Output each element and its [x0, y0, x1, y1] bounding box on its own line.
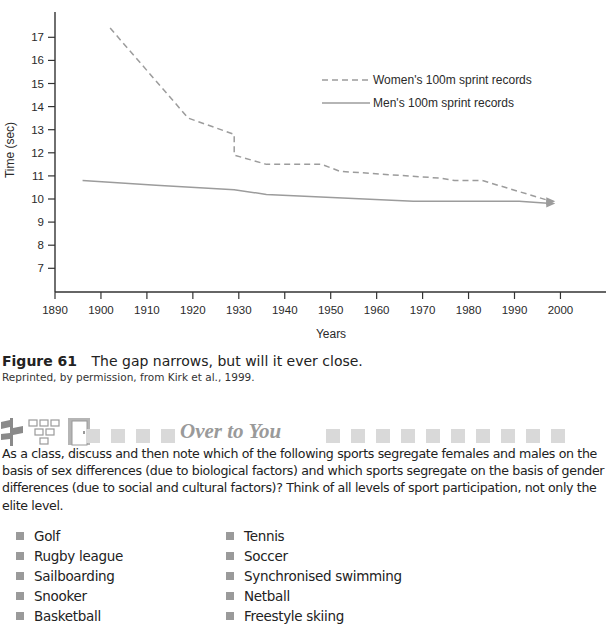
sport-list-item: Sailboarding — [16, 566, 123, 586]
y-tick-label: 15 — [31, 78, 44, 90]
x-tick-label: 1960 — [364, 304, 390, 316]
y-tick-label: 16 — [31, 54, 44, 66]
sport-list-item: Netball — [226, 586, 402, 606]
square-bullet-icon — [16, 552, 24, 560]
square-bullet-icon — [16, 592, 24, 600]
decor-square — [136, 429, 150, 443]
square-bullet-icon — [16, 532, 24, 540]
sport-name: Rugby league — [34, 548, 123, 564]
decor-square — [161, 429, 175, 443]
sport-name: Basketball — [34, 608, 101, 624]
square-bullet-icon — [226, 572, 234, 580]
men-records-line — [83, 181, 552, 204]
x-tick-label: 1950 — [318, 304, 344, 316]
sport-list-item: Soccer — [226, 546, 402, 566]
x-tick-label: 1990 — [502, 304, 528, 316]
x-tick-label: 1940 — [272, 304, 298, 316]
x-tick-label: 1980 — [456, 304, 482, 316]
decor-square — [501, 429, 515, 443]
decor-square — [526, 429, 540, 443]
y-tick-label: 7 — [38, 262, 44, 274]
sport-name: Synchronised swimming — [244, 568, 402, 584]
decor-square — [551, 429, 565, 443]
y-tick-label: 10 — [31, 193, 44, 205]
signpost-icon — [0, 416, 24, 446]
decor-square — [351, 429, 365, 443]
square-bullet-icon — [226, 592, 234, 600]
decor-square — [376, 429, 390, 443]
sport-list-item: Rugby league — [16, 546, 123, 566]
figure-caption-text: The gap narrows, but will it ever close. — [92, 353, 363, 369]
decor-square — [426, 429, 440, 443]
sport-name: Netball — [244, 588, 290, 604]
legend-label: Men's 100m sprint records — [373, 96, 514, 110]
figure-number: Figure 61 — [2, 353, 77, 369]
sport-list-item: Synchronised swimming — [226, 566, 402, 586]
sport-name: Golf — [34, 528, 60, 544]
sport-name: Freestyle skiing — [244, 608, 344, 624]
decor-square — [326, 429, 340, 443]
sport-list-item: Snooker — [16, 586, 123, 606]
decor-square — [476, 429, 490, 443]
y-axis-label: Time (sec) — [3, 122, 17, 178]
sport-list-item: Basketball — [16, 606, 123, 626]
y-tick-label: 17 — [31, 31, 44, 43]
figure-caption: Figure 61 The gap narrows, but will it e… — [2, 352, 602, 384]
decor-square — [451, 429, 465, 443]
sport-list-item: Tennis — [226, 526, 402, 546]
decor-squares-left — [86, 429, 175, 443]
sport-list-item: Freestyle skiing — [226, 606, 402, 626]
chart-legend: Women's 100m sprint recordsMen's 100m sp… — [322, 73, 532, 110]
square-bullet-icon — [16, 572, 24, 580]
decor-square — [111, 429, 125, 443]
x-tick-label: 1920 — [180, 304, 206, 316]
sport-name: Tennis — [244, 528, 284, 544]
x-axis-label: Years — [316, 327, 346, 341]
x-tick-label: 1970 — [410, 304, 436, 316]
y-tick-label: 14 — [31, 101, 44, 113]
sprint-records-chart: 7891011121314151617189019001910192019301… — [0, 0, 608, 345]
discussion-prompt: As a class, discuss and then note which … — [2, 445, 606, 514]
y-tick-label: 13 — [31, 124, 44, 136]
sport-name: Sailboarding — [34, 568, 115, 584]
sports-list-left: GolfRugby leagueSailboardingSnookerBaske… — [16, 526, 123, 626]
over-to-you-header: Over to You — [0, 414, 608, 446]
square-bullet-icon — [16, 612, 24, 620]
x-tick-label: 1930 — [226, 304, 252, 316]
square-bullet-icon — [226, 532, 234, 540]
x-tick-label: 2000 — [548, 304, 574, 316]
square-bullet-icon — [226, 612, 234, 620]
y-tick-label: 9 — [38, 216, 44, 228]
section-title: Over to You — [180, 419, 281, 444]
decor-squares-right — [326, 429, 565, 443]
sport-list-item: Golf — [16, 526, 123, 546]
women-records-line — [110, 28, 551, 201]
decor-square — [86, 429, 100, 443]
sport-name: Soccer — [244, 548, 288, 564]
y-tick-label: 12 — [31, 147, 44, 159]
sports-list-right: TennisSoccerSynchronised swimmingNetball… — [226, 526, 402, 626]
x-tick-label: 1890 — [42, 304, 68, 316]
y-tick-label: 11 — [32, 170, 44, 182]
decor-square — [401, 429, 415, 443]
x-tick-label: 1900 — [88, 304, 114, 316]
square-bullet-icon — [226, 552, 234, 560]
y-tick-label: 8 — [38, 239, 44, 251]
legend-label: Women's 100m sprint records — [373, 73, 532, 87]
figure-credit: Reprinted, by permission, from Kirk et a… — [2, 370, 602, 384]
org-chart-icon — [27, 418, 61, 446]
x-tick-label: 1910 — [134, 304, 160, 316]
sport-name: Snooker — [34, 588, 87, 604]
chart-series — [83, 28, 556, 208]
